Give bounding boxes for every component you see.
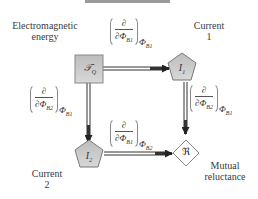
edge-current2-reluctance xyxy=(104,152,172,155)
operator-current1-reluctance: ∂ ∂ΦB2 ΦB1 xyxy=(190,83,233,114)
current1-symbol: I1 xyxy=(170,62,194,75)
operator-energy-current2: ∂ ∂ΦB2 ΦB1 xyxy=(30,84,73,115)
operator-current2-reluctance: ∂ ∂ΦB1 ΦB2 xyxy=(110,118,153,149)
current2-caption: Current 2 xyxy=(24,168,70,190)
reluctance-symbol: ℜ xyxy=(176,146,196,157)
energy-symbol: 𝒯Q xyxy=(78,62,102,75)
energy-caption: Electromagnetic energy xyxy=(4,20,86,42)
operator-energy-current1: ∂ ∂ΦB1 ΦB1 xyxy=(110,16,153,47)
edge-energy-current1 xyxy=(103,67,169,70)
current2-symbol: I2 xyxy=(77,150,101,163)
reluctance-caption: Mutual reluctance xyxy=(197,160,253,182)
current1-caption: Current 1 xyxy=(184,20,234,42)
edge-current1-reluctance xyxy=(184,82,187,134)
edge-energy-current2 xyxy=(87,83,90,142)
